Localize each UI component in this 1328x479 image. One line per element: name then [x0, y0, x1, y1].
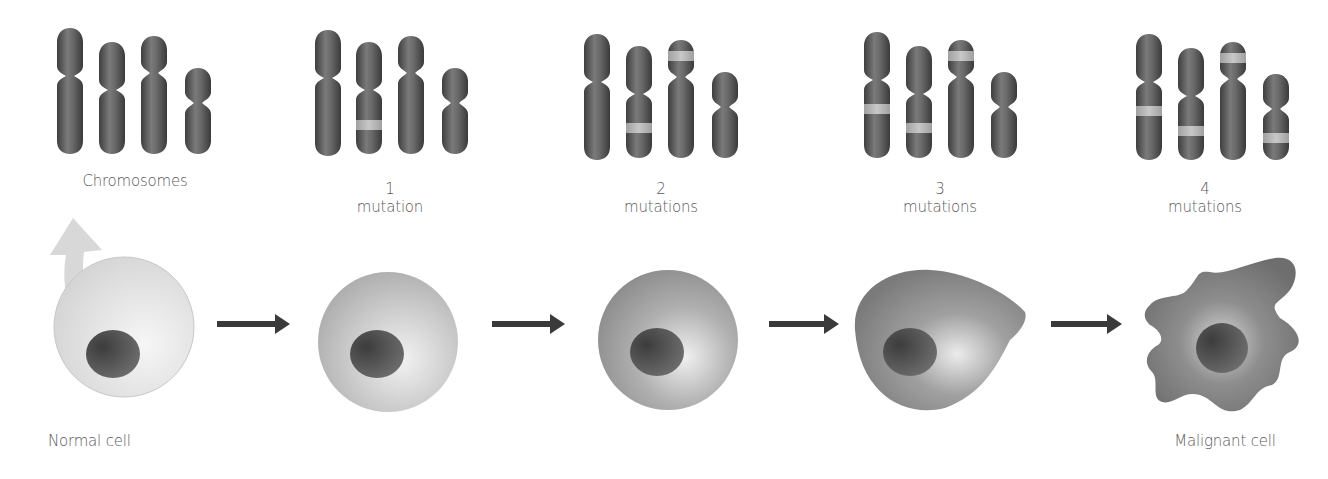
nucleus — [350, 330, 404, 378]
nucleus — [630, 328, 684, 376]
mutation-band — [1220, 53, 1246, 63]
normal-cell — [54, 257, 194, 397]
chromosome-group-normal — [57, 28, 211, 154]
mutation-word: mutations — [601, 198, 721, 216]
cell-stage-1 — [318, 272, 458, 412]
chromosomes-label: Chromosomes — [60, 172, 210, 190]
mutation-label-2: 2 mutations — [601, 180, 721, 216]
mutation-label-3: 3 mutations — [880, 180, 1000, 216]
chromosome-group-2-mutations — [584, 34, 738, 160]
mutation-word: mutations — [1145, 198, 1265, 216]
mutation-band — [948, 51, 974, 61]
normal-cell-label: Normal cell — [48, 432, 168, 450]
mutation-band — [1178, 126, 1204, 136]
nucleus — [86, 330, 140, 378]
mutation-count: 3 — [880, 180, 1000, 198]
mutation-band — [356, 120, 382, 130]
mutation-band — [1263, 133, 1289, 143]
mutation-label-1: 1 mutation — [330, 180, 450, 216]
chromosome-label-line1: Chromosomes — [60, 172, 210, 190]
cancer-progression-diagram: Chromosomes 1 mutation 2 mutations 3 mut… — [0, 0, 1328, 479]
malignant-cell-label: Malignant cell — [1150, 432, 1300, 450]
mutation-count: 4 — [1145, 180, 1265, 198]
mutation-band — [864, 104, 890, 114]
right-arrow-icon — [217, 314, 290, 334]
mutation-word: mutation — [330, 198, 450, 216]
chromosome-group-4-mutations — [1136, 34, 1289, 160]
malignant-cell — [1145, 258, 1299, 412]
nucleus — [883, 328, 937, 376]
right-arrow-icon — [1051, 314, 1122, 334]
right-arrow-icon — [492, 314, 565, 334]
right-arrow-icon — [769, 314, 839, 334]
normal-cell-label-text: Normal cell — [48, 432, 168, 450]
malignant-cell-label-text: Malignant cell — [1150, 432, 1300, 450]
cell-stage-2 — [598, 270, 738, 410]
chromosome-group-1-mutation — [315, 30, 468, 156]
nucleus — [1196, 323, 1248, 373]
mutation-band — [1136, 106, 1162, 116]
cell-stage-3-teardrop — [855, 270, 1026, 410]
mutation-band — [668, 51, 694, 61]
mutation-count: 1 — [330, 180, 450, 198]
chromosome-group-3-mutations — [864, 32, 1017, 158]
mutation-band — [626, 123, 652, 133]
mutation-band — [906, 123, 932, 133]
mutation-count: 2 — [601, 180, 721, 198]
mutation-label-4: 4 mutations — [1145, 180, 1265, 216]
mutation-word: mutations — [880, 198, 1000, 216]
